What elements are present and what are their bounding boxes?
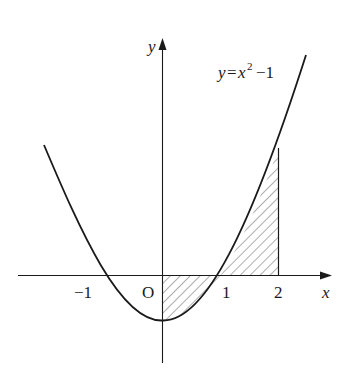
tick-label-2: 2 [274, 283, 283, 302]
x-axis-arrow-icon [320, 272, 332, 280]
svg-text:=: = [227, 63, 237, 82]
x-axis-label: x [321, 283, 330, 302]
origin-label: O [142, 283, 154, 302]
tick-label-1: 1 [222, 283, 231, 302]
parabola-diagram: y x O −1 1 2 y = x 2 −1 [0, 0, 356, 384]
curve-equation-label: y = x 2 −1 [216, 60, 274, 82]
svg-text:y: y [216, 63, 226, 82]
y-axis-arrow-icon [159, 38, 167, 50]
svg-text:2: 2 [247, 60, 253, 72]
svg-text:−1: −1 [256, 63, 274, 82]
y-axis-label: y [146, 37, 156, 56]
tick-label-neg1: −1 [74, 283, 92, 302]
svg-text:x: x [237, 63, 246, 82]
